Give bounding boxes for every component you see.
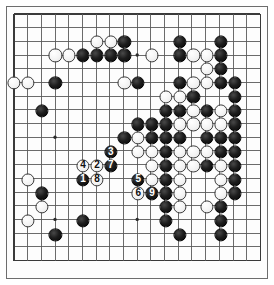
numbered-move-2: 2 (90, 159, 103, 172)
numbered-move-7: 7 (104, 159, 117, 172)
numbered-move-8: 8 (90, 173, 103, 186)
numbered-move-5: 5 (132, 173, 145, 186)
numbered-move-9: 9 (145, 187, 158, 200)
go-board-figure: 123456789 (0, 0, 274, 285)
move-number-label: 9 (149, 188, 154, 198)
move-number-label: 6 (136, 188, 141, 198)
move-number-layer: 123456789 (7, 7, 267, 278)
move-number-label: 4 (80, 161, 85, 171)
move-number-label: 3 (108, 147, 113, 157)
move-number-label: 8 (94, 175, 99, 185)
move-number-label: 2 (94, 161, 99, 171)
goban[interactable]: 123456789 (6, 6, 268, 279)
numbered-move-1: 1 (76, 173, 89, 186)
numbered-move-3: 3 (104, 145, 117, 158)
move-number-label: 1 (80, 175, 85, 185)
numbered-move-6: 6 (132, 187, 145, 200)
move-number-label: 7 (108, 161, 113, 171)
numbered-move-4: 4 (76, 159, 89, 172)
move-number-label: 5 (136, 175, 141, 185)
